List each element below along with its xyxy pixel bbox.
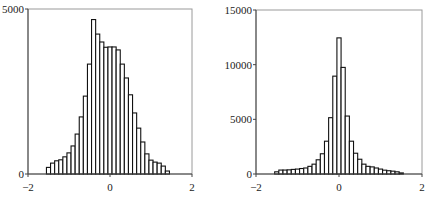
histogram-bar (145, 154, 149, 174)
histogram-bar (153, 162, 157, 174)
histogram-bar (374, 168, 378, 174)
histogram-bar (383, 170, 387, 174)
histogram-bar (133, 113, 137, 174)
histogram-bar (291, 169, 295, 174)
histogram-bar (92, 20, 96, 174)
histogram-bar (341, 67, 345, 174)
histogram-bar (324, 141, 328, 174)
histogram-bar (329, 118, 333, 174)
histogram-bar (108, 47, 112, 174)
histogram-bar (46, 167, 50, 174)
histogram-right-plot: 050001000015000−202 (213, 0, 427, 200)
histogram-bar (137, 128, 141, 174)
histogram-left: 05000−202 (0, 0, 213, 200)
histogram-bar (83, 96, 87, 174)
y-tick-label: 10000 (225, 59, 253, 71)
histogram-bar (112, 47, 116, 174)
histogram-bar (79, 117, 83, 174)
histogram-bar (104, 47, 108, 174)
histogram-bar (312, 164, 316, 174)
histogram-bar (161, 166, 165, 174)
y-tick-label: 5000 (2, 3, 25, 15)
histogram-right: 050001000015000−202 (213, 0, 427, 200)
histogram-bar (304, 168, 308, 174)
histogram-bar (300, 169, 304, 174)
histogram-bar (100, 42, 104, 174)
x-tick-label: −2 (22, 181, 34, 193)
x-tick-label: 2 (419, 181, 425, 193)
histogram-bar (354, 153, 358, 174)
histogram-bar (349, 141, 353, 174)
histogram-bar (51, 163, 55, 174)
histogram-bar (295, 169, 299, 174)
y-tick-label: 0 (247, 168, 253, 180)
histogram-bar (55, 161, 59, 174)
histogram-bar (63, 157, 67, 174)
y-tick-label: 15000 (225, 4, 253, 16)
histogram-bar (96, 34, 100, 174)
histogram-bar (337, 38, 341, 174)
histogram-bar (149, 160, 153, 174)
histogram-bar (345, 116, 349, 174)
histogram-bar (308, 166, 312, 174)
histogram-bar (320, 154, 324, 174)
histogram-bar (358, 159, 362, 174)
x-tick-label: 0 (107, 181, 113, 193)
histogram-bar (287, 170, 291, 174)
x-tick-label: 2 (189, 181, 195, 193)
histogram-bar (120, 64, 124, 174)
x-tick-label: 0 (336, 181, 342, 193)
histogram-bar (378, 169, 382, 174)
histogram-bar (370, 167, 374, 174)
histogram-bar (124, 78, 128, 174)
histogram-bar (75, 134, 79, 174)
y-tick-label: 0 (19, 168, 25, 180)
histogram-bar (333, 76, 337, 174)
x-tick-label: −2 (250, 181, 262, 193)
histogram-bar (283, 170, 287, 174)
histogram-bar (128, 95, 132, 174)
histogram-bar (279, 170, 283, 174)
histogram-bar (71, 146, 75, 174)
histogram-left-plot: 05000−202 (0, 0, 213, 200)
y-tick-label: 5000 (230, 113, 253, 125)
histogram-bar (141, 142, 145, 174)
histogram-bar (316, 160, 320, 174)
histogram-bar (157, 163, 161, 174)
histogram-bar (87, 64, 91, 174)
histogram-bar (116, 50, 120, 174)
histogram-bar (362, 164, 366, 174)
histogram-bar (366, 166, 370, 174)
histogram-bar (59, 160, 63, 174)
histogram-bar (67, 153, 71, 174)
